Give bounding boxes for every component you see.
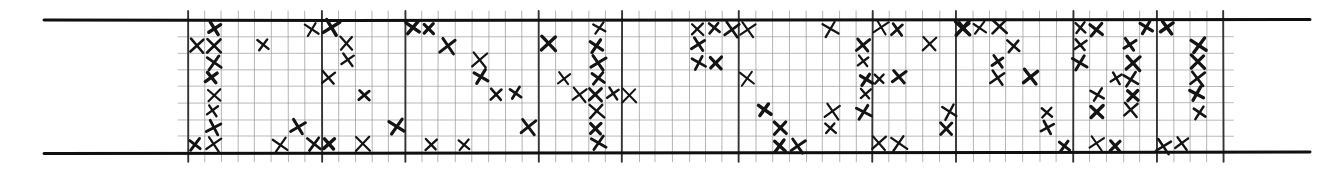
tally-dot-plot-figure (0, 0, 1343, 176)
scan-sheet (0, 0, 1343, 176)
paper-background (0, 0, 1343, 176)
